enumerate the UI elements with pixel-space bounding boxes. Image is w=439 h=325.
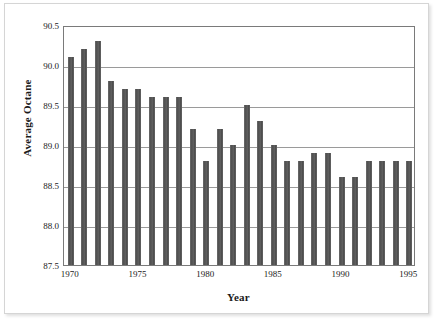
bar (135, 89, 141, 265)
bar (81, 49, 87, 265)
bar (95, 41, 101, 265)
bar (244, 105, 250, 265)
bar (149, 97, 155, 265)
bar (122, 89, 128, 265)
x-axis-tick-label: 1980 (185, 269, 225, 279)
bar (203, 161, 209, 265)
y-axis-tick-label: 90.0 (23, 62, 59, 71)
x-axis-tick-label: 1990 (321, 269, 361, 279)
bar (176, 97, 182, 265)
bar (352, 177, 358, 265)
bar (271, 145, 277, 265)
bar (190, 129, 196, 265)
x-axis-title: Year (61, 291, 416, 303)
bar (379, 161, 385, 265)
bar (108, 81, 114, 265)
bar-series (64, 27, 414, 265)
bar (217, 129, 223, 265)
plot-area (63, 26, 415, 266)
y-axis-tick-labels: 87.588.088.589.089.590.090.5 (19, 26, 59, 266)
y-axis-tick-label: 88.5 (23, 182, 59, 191)
x-axis-tick-label: 1975 (117, 269, 157, 279)
bar (311, 153, 317, 265)
bar (163, 97, 169, 265)
x-axis-tick-label: 1985 (253, 269, 293, 279)
bar (230, 145, 236, 265)
bar (393, 161, 399, 265)
bar (325, 153, 331, 265)
y-axis-tick-label: 88.0 (23, 222, 59, 231)
x-axis-tick-labels: 197019751980198519901995 (63, 269, 415, 285)
bar (257, 121, 263, 265)
bar (68, 57, 74, 265)
bar (339, 177, 345, 265)
chart-canvas-frame: Average Octane 87.588.088.589.089.590.09… (4, 3, 429, 314)
y-axis-tick-label: 89.5 (23, 102, 59, 111)
x-axis-tick-label: 1970 (50, 269, 90, 279)
bar (284, 161, 290, 265)
bar (298, 161, 304, 265)
x-axis-tick-label: 1995 (388, 269, 428, 279)
y-axis-tick-label: 89.0 (23, 142, 59, 151)
bar (366, 161, 372, 265)
bar (406, 161, 412, 265)
y-axis-tick-label: 90.5 (23, 22, 59, 31)
chart-screenshot: Average Octane 87.588.088.589.089.590.09… (0, 0, 439, 325)
